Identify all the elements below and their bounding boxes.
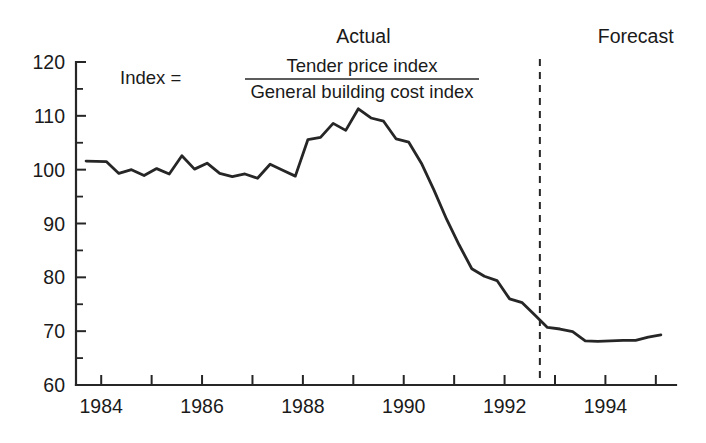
formula-denominator: General building cost index: [250, 81, 474, 102]
chart-canvas: 60708090100110120 1984198619881990199219…: [0, 0, 706, 443]
formula-left-hand-side: Index =: [120, 67, 181, 88]
y-tick-label: 110: [34, 105, 65, 127]
y-tick-label: 100: [32, 159, 65, 181]
tender-price-index-chart: 60708090100110120 1984198619881990199219…: [0, 0, 706, 443]
y-tick-label: 70: [43, 320, 65, 342]
y-tick-label: 80: [43, 266, 65, 288]
x-tick-label: 1992: [483, 395, 526, 417]
x-tick-label: 1984: [80, 395, 124, 417]
actual-region-label: Actual: [336, 25, 390, 47]
y-tick-label: 120: [32, 51, 65, 73]
x-tick-label: 1986: [180, 395, 223, 417]
x-tick-label: 1994: [584, 395, 628, 417]
forecast-region-label: Forecast: [598, 25, 674, 47]
formula-numerator: Tender price index: [286, 55, 438, 76]
x-tick-label: 1990: [382, 395, 426, 417]
x-tick-label: 1988: [281, 395, 324, 417]
y-tick-label: 60: [43, 374, 65, 396]
y-tick-label: 90: [43, 213, 65, 235]
